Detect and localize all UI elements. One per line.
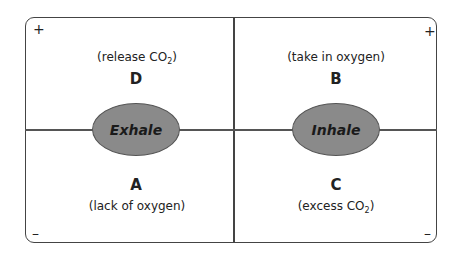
inhale-oval: Inhale (292, 103, 380, 156)
minus-sign-bottom-right: – (424, 226, 431, 240)
exhale-label: Exhale (110, 122, 162, 138)
inhale-label: Inhale (312, 122, 361, 138)
quadrant-b-description: (take in oxygen) (256, 50, 416, 64)
minus-sign-bottom-left: – (32, 226, 39, 240)
quadrant-c-label: C (316, 176, 356, 194)
quadrant-c-description: (excess CO2) (256, 199, 416, 215)
exhale-oval: Exhale (92, 103, 180, 156)
quadrant-d-label: D (116, 70, 156, 88)
quadrant-a-label: A (116, 176, 156, 194)
plus-sign-top-left: + (33, 22, 45, 36)
plus-sign-top-right: + (424, 24, 436, 38)
quadrant-b-label: B (316, 70, 356, 88)
quadrant-a-description: (lack of oxygen) (57, 199, 217, 213)
quadrant-d-description: (release CO2) (57, 50, 217, 66)
